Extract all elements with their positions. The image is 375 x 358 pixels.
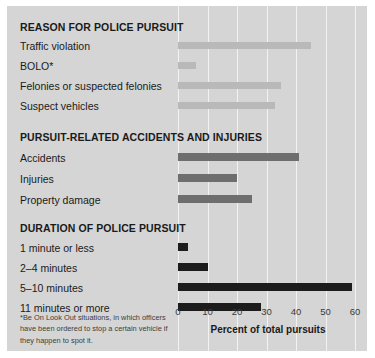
section-title-duration: DURATION OF POLICE PURSUIT (20, 222, 186, 234)
x-tick-label-60: 60 (350, 306, 361, 317)
category-label-bolo: BOLO* (20, 60, 53, 72)
bar-1-minute-or-less (178, 243, 188, 251)
bar-suspect-vehicles (178, 102, 275, 109)
axis-title-x: Percent of total pursuits (178, 324, 358, 335)
bar-11-minutes-or-more (178, 303, 261, 311)
bar-2-4-minutes (178, 263, 208, 271)
x-tick-label-0: 0 (175, 306, 180, 317)
category-label-felonies: Felonies or suspected felonies (20, 80, 162, 92)
bar-property-damage (178, 195, 252, 203)
x-tick-label-50: 50 (320, 306, 331, 317)
category-label-property-damage: Property damage (20, 194, 101, 206)
gridline-40 (296, 6, 297, 351)
category-label-2-4-minutes: 2–4 minutes (20, 262, 77, 274)
category-label-suspect-vehicles: Suspect vehicles (20, 100, 99, 112)
x-tick-label-10: 10 (202, 306, 213, 317)
bar-accidents (178, 153, 299, 161)
gridline-50 (326, 6, 327, 351)
bar-bolo (178, 62, 196, 69)
section-title-reason: REASON FOR POLICE PURSUIT (20, 21, 184, 33)
category-label-1-minute-or-less: 1 minute or less (20, 242, 94, 254)
gridline-20 (237, 6, 238, 351)
bar-5-10-minutes (178, 283, 352, 291)
bar-traffic-violation (178, 42, 311, 49)
category-label-traffic-violation: Traffic violation (20, 40, 90, 52)
category-label-injuries: Injuries (20, 173, 54, 185)
category-label-5-10-minutes: 5–10 minutes (20, 282, 83, 294)
section-title-accidents: PURSUIT-RELATED ACCIDENTS AND INJURIES (20, 131, 262, 143)
x-tick-label-20: 20 (232, 306, 243, 317)
chart-footnote: *Be On Look Out situations, in which off… (20, 312, 170, 346)
x-tick-label-30: 30 (261, 306, 272, 317)
chart-panel: REASON FOR POLICE PURSUIT Traffic violat… (7, 6, 367, 351)
bar-felonies (178, 82, 281, 89)
gridline-60 (355, 6, 356, 351)
x-tick-label-40: 40 (291, 306, 302, 317)
bar-injuries (178, 174, 237, 182)
category-label-accidents: Accidents (20, 152, 66, 164)
gridline-30 (267, 6, 268, 351)
